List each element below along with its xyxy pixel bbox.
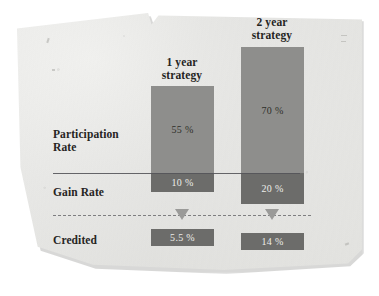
column-header-1-year-line1: 1 year [147, 56, 217, 69]
bar-segment-participation-2-year: 70 % [241, 47, 304, 173]
credited-box-1-year: 5.5 % [151, 229, 214, 246]
bar-2-year-strategy: 70 % 20 % [241, 47, 304, 204]
arrow-down-icon-1-year [175, 209, 189, 220]
bar-1-year-strategy: 55 % 10 % [151, 86, 214, 192]
column-header-1-year: 1 year strategy [147, 56, 217, 81]
bar-segment-gain-2-year: 20 % [241, 173, 304, 204]
bar-value-gain-2-year: 20 % [261, 183, 283, 194]
column-header-2-year-line2: strategy [237, 29, 307, 42]
participation-gain-divider-line [53, 173, 300, 174]
row-label-participation-rate: Participation Rate [53, 128, 119, 154]
bar-segment-gain-1-year: 10 % [151, 173, 214, 192]
credited-value-1-year: 5.5 % [170, 232, 195, 243]
row-label-participation-line2: Rate [53, 141, 119, 154]
bar-value-participation-1-year: 55 % [171, 124, 193, 135]
row-label-gain-rate-text: Gain Rate [53, 186, 104, 199]
row-label-credited: Credited [53, 234, 97, 247]
column-header-2-year-line1: 2 year [237, 16, 307, 29]
row-label-credited-text: Credited [53, 234, 97, 247]
chart-canvas: 1 year strategy 2 year strategy 55 % 10 … [0, 0, 379, 296]
bar-value-gain-1-year: 10 % [171, 177, 193, 188]
row-label-gain-rate: Gain Rate [53, 186, 104, 199]
bar-segment-participation-1-year: 55 % [151, 86, 214, 173]
column-header-1-year-line2: strategy [147, 69, 217, 82]
credited-value-2-year: 14 % [261, 236, 283, 247]
scanned-chart-screenshot: 1 year strategy 2 year strategy 55 % 10 … [0, 0, 379, 296]
arrow-down-icon-2-year [265, 209, 279, 220]
bar-value-participation-2-year: 70 % [261, 105, 283, 116]
column-header-2-year: 2 year strategy [237, 16, 307, 41]
credited-box-2-year: 14 % [241, 233, 304, 250]
row-label-participation-line1: Participation [53, 128, 119, 141]
